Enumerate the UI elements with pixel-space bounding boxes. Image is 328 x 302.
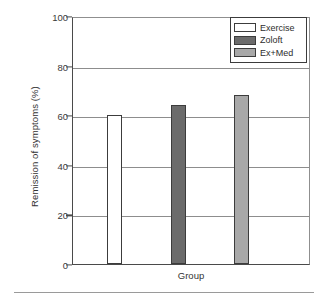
legend-swatch-ex-med bbox=[234, 48, 256, 57]
bar-zoloft bbox=[171, 105, 186, 264]
bar-chart-figure: Remission of symptoms (%) 100 80 60 40 2… bbox=[0, 0, 328, 302]
gridline-80 bbox=[73, 68, 309, 69]
legend-item-ex-med: Ex+Med bbox=[234, 47, 303, 59]
bar-exercise bbox=[107, 115, 122, 264]
bar-ex-med bbox=[234, 95, 249, 264]
legend-label-ex-med: Ex+Med bbox=[260, 48, 293, 58]
x-axis-title: Group bbox=[72, 270, 310, 281]
legend-item-zoloft: Zoloft bbox=[234, 34, 303, 46]
y-tick-label-20: 20 bbox=[24, 210, 68, 221]
y-tick-label-100: 100 bbox=[24, 12, 68, 23]
y-tick-label-40: 40 bbox=[24, 160, 68, 171]
chart-legend: Exercise Zoloft Ex+Med bbox=[230, 17, 307, 63]
footer-divider bbox=[14, 292, 314, 293]
legend-item-exercise: Exercise bbox=[234, 22, 303, 34]
y-tick-label-0: 0 bbox=[24, 260, 68, 271]
y-tick-label-60: 60 bbox=[24, 111, 68, 122]
legend-swatch-exercise bbox=[234, 23, 256, 32]
legend-label-exercise: Exercise bbox=[260, 23, 295, 33]
legend-label-zoloft: Zoloft bbox=[260, 35, 283, 45]
legend-swatch-zoloft bbox=[234, 36, 256, 45]
y-tick-label-80: 80 bbox=[24, 61, 68, 72]
